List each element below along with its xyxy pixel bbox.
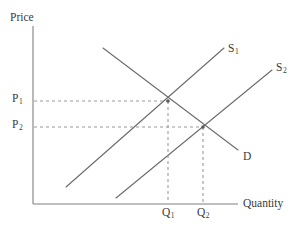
price-tick-sub-p1: 1 (18, 97, 22, 106)
supply-curve-s2 (116, 70, 272, 198)
y-axis-title: Price (10, 12, 34, 24)
demand-curve-d (103, 48, 238, 150)
equilibrium-point-1 (166, 99, 170, 103)
price-tick-label-p2: P2 (12, 119, 23, 131)
price-tick-label-p1: P1 (12, 93, 23, 105)
equilibrium-point-2 (201, 125, 205, 129)
quantity-tick-label-q2: Q2 (197, 207, 210, 219)
x-axis-title: Quantity (243, 198, 283, 210)
curve-label-d: D (243, 151, 251, 163)
quantity-tick-sub-q1: 1 (170, 211, 174, 220)
quantity-tick-sub-q2: 2 (205, 211, 209, 220)
supply-curve-s1 (66, 48, 224, 187)
supply-demand-figure: Price Quantity P1 P2 Q1 Q2 S1 S2 D (0, 0, 298, 235)
curve-label-sub-s1: 1 (234, 47, 238, 56)
curve-label-base-d: D (243, 150, 251, 162)
curve-label-sub-s2: 2 (282, 66, 286, 75)
quantity-tick-label-q1: Q1 (162, 207, 175, 219)
curve-label-s2: S2 (276, 62, 287, 74)
price-tick-sub-p2: 2 (18, 123, 22, 132)
curve-label-s1: S1 (228, 43, 239, 55)
